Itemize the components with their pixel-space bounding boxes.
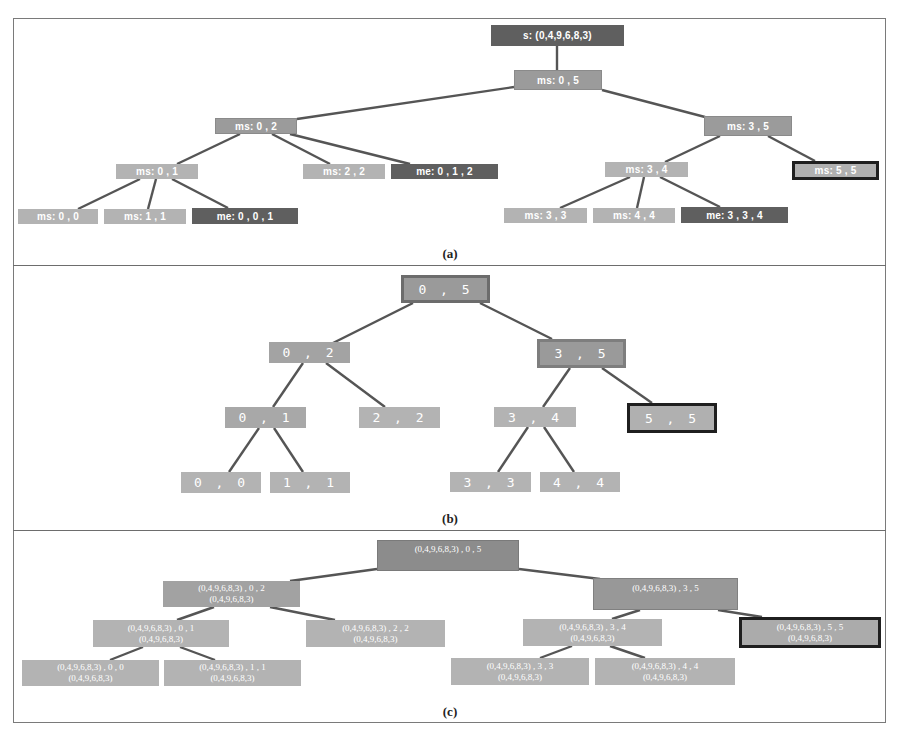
node-label: ms: 0 , 5: [537, 75, 579, 86]
panel-divider-b-c: [13, 530, 886, 531]
tree-node-seq-4-4: (0,4,9,6,8,3) , 4 , 4 (0,4,9,6,8,3): [595, 658, 735, 685]
node-label: 3 , 5: [554, 346, 608, 361]
node-label-line1: (0,4,9,6,8,3) , 3 , 5: [632, 583, 699, 594]
node-label: 1 , 1: [283, 475, 337, 490]
tree-node-mergesort-4-4: ms: 4 , 4: [593, 208, 675, 223]
node-label: ms: 0 , 2: [235, 121, 277, 132]
node-label: ms: 4 , 4: [613, 210, 655, 221]
node-label-line1: (0,4,9,6,8,3) , 0 , 0: [57, 662, 124, 673]
node-label: 5 , 5: [645, 411, 699, 426]
node-label-line1: (0,4,9,6,8,3) , 0 , 1: [128, 623, 195, 634]
tree-node-mergesort-3-3: ms: 3 , 3: [504, 208, 587, 223]
node-label-line1: (0,4,9,6,8,3) , 5 , 5: [777, 622, 844, 633]
tree-node-mergesort-0-5: ms: 0 , 5: [514, 70, 602, 90]
node-label-line2: (0,4,9,6,8,3): [139, 634, 183, 645]
node-label: 0 , 2: [282, 345, 336, 360]
node-label: 0 , 1: [238, 410, 292, 425]
node-label: me: 0 , 1 , 2: [416, 166, 473, 177]
node-label: 3 , 4: [508, 410, 562, 425]
tree-node-3-5: 3 , 5: [537, 339, 626, 368]
tree-node-mergesort-0-2: ms: 0 , 2: [215, 118, 297, 134]
tree-node-seq-5-5-highlighted: (0,4,9,6,8,3) , 5 , 5 (0,4,9,6,8,3): [739, 617, 881, 648]
tree-node-source-sequence: s: (0,4,9,6,8,3): [491, 25, 624, 46]
node-label-line1: (0,4,9,6,8,3) , 0 , 5: [415, 544, 482, 555]
node-label: ms: 3 , 5: [727, 121, 769, 132]
node-label: 3 , 3: [463, 475, 517, 490]
tree-node-1-1: 1 , 1: [270, 472, 350, 493]
node-label-line1: (0,4,9,6,8,3) , 1 , 1: [199, 662, 266, 673]
tree-node-seq-0-1: (0,4,9,6,8,3) , 0 , 1 (0,4,9,6,8,3): [93, 620, 229, 647]
node-label: ms: 3 , 3: [525, 210, 567, 221]
tree-node-seq-0-2: (0,4,9,6,8,3) , 0 , 2 (0,4,9,6,8,3): [163, 581, 300, 607]
node-label: ms: 1 , 1: [124, 211, 166, 222]
tree-node-seq-3-4: (0,4,9,6,8,3) , 3 , 4 (0,4,9,6,8,3): [523, 619, 662, 646]
panel-label-c: (c): [443, 704, 457, 720]
tree-node-seq-0-0: (0,4,9,6,8,3) , 0 , 0 (0,4,9,6,8,3): [22, 660, 159, 686]
tree-node-4-4: 4 , 4: [540, 472, 620, 492]
tree-node-0-5: 0 , 5: [401, 275, 490, 303]
node-label: 2 , 2: [372, 410, 426, 425]
tree-node-merge-3-3-4: me: 3 , 3 , 4: [681, 207, 788, 223]
node-label-line1: (0,4,9,6,8,3) , 2 , 2: [342, 623, 409, 634]
tree-node-2-2: 2 , 2: [359, 407, 440, 428]
tree-node-mergesort-3-4: ms: 3 , 4: [605, 162, 688, 177]
tree-node-seq-3-5: (0,4,9,6,8,3) , 3 , 5: [593, 578, 738, 610]
tree-node-mergesort-0-0: ms: 0 , 0: [18, 209, 98, 224]
tree-node-0-0: 0 , 0: [181, 472, 261, 493]
node-label-line1: (0,4,9,6,8,3) , 0 , 2: [198, 583, 265, 594]
panel-label-a: (a): [442, 246, 457, 262]
node-label-line2: (0,4,9,6,8,3): [643, 672, 687, 683]
tree-node-merge-0-0-1: me: 0 , 0 , 1: [192, 208, 298, 224]
node-label: ms: 0 , 1: [136, 166, 178, 177]
node-label-line2: (0,4,9,6,8,3): [498, 672, 542, 683]
node-label: me: 0 , 0 , 1: [217, 211, 274, 222]
node-label-line2: (0,4,9,6,8,3): [570, 633, 614, 644]
tree-node-seq-2-2: (0,4,9,6,8,3) , 2 , 2 (0,4,9,6,8,3): [306, 620, 445, 647]
node-label-line2: (0,4,9,6,8,3): [210, 673, 254, 684]
node-label: me: 3 , 3 , 4: [706, 210, 763, 221]
tree-node-0-2: 0 , 2: [269, 342, 350, 363]
node-label-line1: (0,4,9,6,8,3) , 3 , 3: [487, 661, 554, 672]
tree-node-mergesort-1-1: ms: 1 , 1: [104, 209, 186, 224]
node-label-line2: (0,4,9,6,8,3): [788, 633, 832, 644]
node-label-line1: (0,4,9,6,8,3) , 3 , 4: [559, 622, 626, 633]
tree-node-mergesort-5-5-highlighted: ms: 5 , 5: [792, 161, 879, 180]
tree-node-seq-1-1: (0,4,9,6,8,3) , 1 , 1 (0,4,9,6,8,3): [164, 660, 301, 686]
tree-node-seq-0-5: (0,4,9,6,8,3) , 0 , 5: [377, 540, 519, 571]
tree-node-5-5-highlighted: 5 , 5: [627, 403, 717, 433]
node-label: 0 , 0: [194, 475, 248, 490]
node-label: ms: 5 , 5: [815, 165, 857, 176]
node-label: s: (0,4,9,6,8,3): [523, 30, 592, 41]
node-label: 4 , 4: [553, 475, 607, 490]
node-label: ms: 0 , 0: [37, 211, 79, 222]
tree-node-3-3: 3 , 3: [450, 472, 531, 492]
tree-node-mergesort-0-1: ms: 0 , 1: [116, 164, 198, 179]
panel-label-b: (b): [442, 511, 458, 527]
tree-node-0-1: 0 , 1: [225, 407, 306, 428]
tree-node-mergesort-3-5: ms: 3 , 5: [704, 116, 792, 136]
node-label: 0 , 5: [418, 282, 472, 297]
panel-divider-a-b: [13, 265, 886, 266]
node-label-line2: (0,4,9,6,8,3): [68, 673, 112, 684]
tree-node-3-4: 3 , 4: [494, 407, 576, 427]
tree-node-merge-0-1-2: me: 0 , 1 , 2: [391, 164, 498, 179]
tree-node-seq-3-3: (0,4,9,6,8,3) , 3 , 3 (0,4,9,6,8,3): [451, 658, 589, 685]
node-label: ms: 2 , 2: [323, 166, 365, 177]
node-label-line1: (0,4,9,6,8,3) , 4 , 4: [632, 661, 699, 672]
node-label-line2: (0,4,9,6,8,3): [209, 594, 253, 605]
node-label-line2: (0,4,9,6,8,3): [353, 634, 397, 645]
node-label: ms: 3 , 4: [626, 164, 668, 175]
tree-node-mergesort-2-2: ms: 2 , 2: [303, 164, 385, 179]
